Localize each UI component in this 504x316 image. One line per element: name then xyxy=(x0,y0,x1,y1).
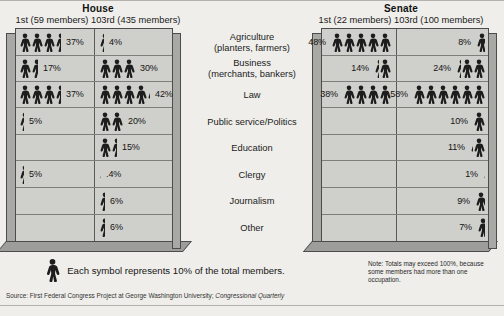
house-1st-law-icons xyxy=(19,84,61,104)
senate-103rd-public-service-icons xyxy=(473,111,485,131)
person-icon xyxy=(343,84,355,104)
person-icon xyxy=(147,84,150,104)
house-103rd-business-cell: 30% xyxy=(95,55,173,80)
person-icon xyxy=(99,191,105,211)
occupation-label-agriculture-line1: Agriculture xyxy=(178,32,326,43)
person-icon xyxy=(99,137,111,157)
house-1st-clergy-value: 5% xyxy=(29,169,42,179)
house-1st-agriculture-icons xyxy=(19,32,61,52)
occupation-label-journalism: Journalism xyxy=(178,196,326,207)
house-1st-public-service-icons xyxy=(19,111,24,131)
house-1st-public-service-value: 5% xyxy=(29,116,42,126)
person-icon xyxy=(413,84,425,104)
house-1st-business-icons xyxy=(19,58,38,78)
person-icon xyxy=(99,111,111,131)
person-icon-partial xyxy=(19,164,24,184)
legend: Each symbol represents 10% of the total … xyxy=(0,256,330,284)
senate-103rd-clergy-icons xyxy=(483,164,485,184)
senate-103rd-clergy-cell: 1% xyxy=(396,161,489,186)
house-103rd-clergy-icons xyxy=(99,164,101,184)
senate-103rd-law-cell: 58% xyxy=(396,81,489,106)
senate-103rd-agriculture-cell: 8% xyxy=(396,29,489,54)
senate-103rd-other-icons xyxy=(477,217,485,237)
legend-text: Each symbol represents 10% of the total … xyxy=(67,265,285,276)
person-icon xyxy=(473,58,485,78)
house-103rd-agriculture-value: 4% xyxy=(109,37,122,47)
person-icon xyxy=(379,84,391,104)
person-icon-partial xyxy=(99,217,105,237)
person-icon xyxy=(473,111,485,131)
person-icon xyxy=(19,84,31,104)
person-icon xyxy=(379,58,391,78)
house-103rd-public-service-icons xyxy=(99,111,123,131)
house-103rd-law-value: 42% xyxy=(155,89,173,99)
source-text: Source: First Federal Congress Project a… xyxy=(6,292,284,299)
occupation-label-clergy: Clergy xyxy=(178,170,326,181)
person-icon xyxy=(19,58,31,78)
note-text: Note: Totals may exceed 100%, because so… xyxy=(368,260,496,285)
person-icon-partial xyxy=(31,58,38,78)
house-103rd-agriculture-icons xyxy=(99,32,104,52)
house-1st-agriculture-cell: 37% xyxy=(15,29,93,54)
house-1st-clergy-icons xyxy=(19,164,24,184)
person-icon xyxy=(135,84,147,104)
person-icon xyxy=(476,32,485,52)
person-icon-partial xyxy=(483,164,485,184)
person-icon-partial xyxy=(477,217,485,237)
house-103rd-business-value: 30% xyxy=(140,63,158,73)
senate-panel-bottom-face xyxy=(303,241,498,252)
person-icon xyxy=(367,84,379,104)
senate-1st-education-cell xyxy=(321,134,395,159)
person-icon xyxy=(123,58,135,78)
person-icon-partial xyxy=(147,84,150,104)
person-icon xyxy=(483,164,485,184)
person-icon xyxy=(475,191,485,211)
house-1st-law-cell: 37% xyxy=(15,81,93,106)
person-icon xyxy=(31,32,43,52)
person-icon xyxy=(379,32,391,52)
senate-1st-business-icons xyxy=(374,58,391,78)
person-icon-partial xyxy=(19,111,24,131)
person-icon xyxy=(367,32,379,52)
house-103rd-journalism-cell: 6% xyxy=(95,188,173,213)
house-103rd-business-icons xyxy=(99,58,135,78)
person-icon xyxy=(31,58,38,78)
person-icon xyxy=(99,84,111,104)
person-icon-partial xyxy=(475,191,485,211)
person-icon xyxy=(123,84,135,104)
senate-1st-agriculture-cell: 48% xyxy=(321,29,395,54)
house-103rd-law-cell: 42% xyxy=(95,81,173,106)
person-icon xyxy=(99,58,111,78)
house-1st-clergy-cell: 5% xyxy=(15,161,93,186)
senate-103rd-journalism-cell: 9% xyxy=(396,188,489,213)
person-icon xyxy=(343,32,355,52)
occupation-label-business: Business (merchants, bankers) xyxy=(178,58,326,79)
person-icon xyxy=(355,32,367,52)
person-icon-partial xyxy=(55,84,61,104)
person-icon xyxy=(19,32,31,52)
senate-1st-law-cell: 38% xyxy=(321,81,395,106)
senate-103rd-agriculture-value: 8% xyxy=(458,37,471,47)
occupation-label-other: Other xyxy=(178,223,326,234)
source-text-italic: Congressional Quarterly xyxy=(215,292,284,299)
source-text-main: Source: First Federal Congress Project a… xyxy=(6,292,215,299)
infographic-root: House 1st (59 members) 103rd (435 member… xyxy=(0,0,504,316)
bottom-rule xyxy=(0,305,504,306)
person-icon xyxy=(45,258,60,282)
person-icon xyxy=(19,111,24,131)
house-103rd-journalism-value: 6% xyxy=(110,196,123,206)
senate-1st-law-value: 38% xyxy=(320,89,338,99)
person-icon xyxy=(449,84,461,104)
person-icon xyxy=(99,217,105,237)
senate-panel-right-face xyxy=(488,33,497,249)
senate-103rd-other-cell: 7% xyxy=(396,214,489,239)
house-103rd-other-cell: 6% xyxy=(95,214,173,239)
house-103rd-other-value: 6% xyxy=(110,222,123,232)
person-icon xyxy=(111,137,117,157)
person-icon xyxy=(43,84,55,104)
person-icon xyxy=(55,84,61,104)
person-icon xyxy=(461,84,473,104)
person-icon-partial xyxy=(55,32,61,52)
senate-subtitle: 1st (22 members) 103rd (100 members) xyxy=(300,15,502,25)
person-icon xyxy=(99,164,101,184)
